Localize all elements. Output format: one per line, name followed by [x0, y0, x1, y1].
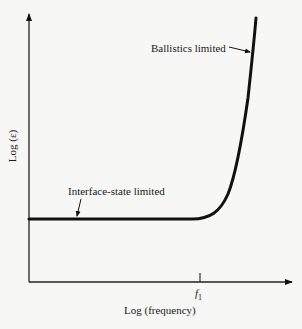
diagram-canvas: Log (ε) Log (frequency) f1 Interface-sta… [0, 0, 302, 329]
f1-subscript: 1 [198, 293, 202, 302]
interface-state-annotation: Interface-state limited [68, 185, 165, 197]
x-axis-label: Log (frequency) [124, 304, 196, 316]
ballistics-annotation: Ballistics limited [151, 42, 226, 54]
y-axis-label: Log (ε) [6, 130, 18, 162]
ballistics-pointer-arrow [229, 47, 250, 52]
x-tick-label-f1: f1 [195, 287, 202, 302]
interface-state-pointer-arrow [77, 199, 81, 216]
